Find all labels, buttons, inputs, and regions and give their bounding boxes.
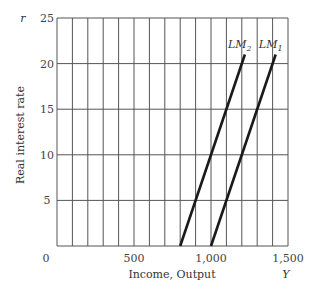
x-tick-label: 1,500 — [272, 252, 304, 265]
lm-curve-chart: LM2LM1 51015202505001,0001,500rYIncome, … — [0, 0, 315, 292]
curve-label-lm1: LM1 — [258, 38, 283, 53]
x-axis-label: Income, Output — [128, 268, 216, 281]
grid — [57, 18, 288, 246]
curve-lm2 — [180, 54, 245, 246]
y-tick-label: 15 — [40, 103, 54, 116]
y-axis-symbol: r — [20, 12, 26, 25]
curve-lm1 — [211, 54, 276, 246]
curve-label-lm2: LM2 — [227, 38, 252, 53]
y-tick-label: 25 — [40, 12, 54, 25]
y-tick-label: 10 — [40, 149, 54, 162]
x-axis-symbol: Y — [282, 268, 291, 281]
y-tick-label: 5 — [44, 194, 51, 207]
y-axis-label: Real interest rate — [14, 86, 27, 184]
y-tick-label: 20 — [40, 58, 54, 71]
x-tick-label: 0 — [43, 252, 50, 265]
x-tick-label: 500 — [124, 252, 145, 265]
x-tick-label: 1,000 — [195, 252, 227, 265]
